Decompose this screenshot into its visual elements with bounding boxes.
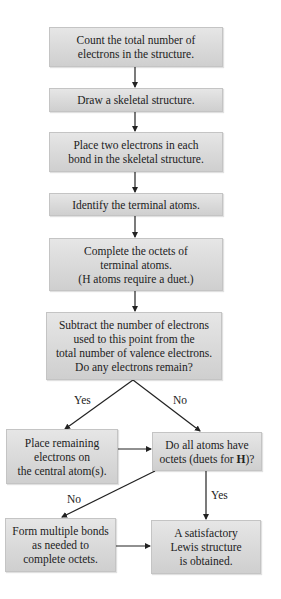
step-lewis-obtained: A satisfactory Lewis structure is obtain…	[151, 520, 261, 574]
step-form-multiple-bonds: Form multiple bonds as needed to complet…	[5, 518, 116, 572]
step-identify-terminal: Identify the terminal atoms.	[49, 193, 223, 216]
step-text: Do all atoms have octets (duets for H)?	[160, 438, 255, 466]
step-text: Count the total number of electrons in t…	[77, 33, 196, 61]
step-count-electrons: Count the total number of electrons in t…	[49, 27, 223, 67]
step-place-bond-electrons: Place two electrons in each bond in the …	[49, 132, 223, 172]
step-text: Complete the octets of terminal atoms. (…	[78, 244, 193, 286]
step-text: Form multiple bonds as needed to complet…	[12, 524, 108, 566]
step-place-remaining: Place remaining electrons on the central…	[6, 429, 118, 484]
label-yes-remain: Yes	[74, 394, 91, 407]
step-text: A satisfactory Lewis structure is obtain…	[170, 526, 241, 568]
step-text: Identify the terminal atoms.	[72, 198, 200, 212]
step-draw-skeleton: Draw a skeletal structure.	[49, 88, 223, 112]
label-no-remain: No	[173, 394, 187, 407]
step-text: Subtract the number of electrons used to…	[56, 318, 212, 374]
step-text: Draw a skeletal structure.	[77, 93, 195, 107]
step-subtract-electrons: Subtract the number of electrons used to…	[46, 312, 222, 380]
step-complete-octets: Complete the octets of terminal atoms. (…	[49, 238, 223, 291]
label-no-octets: No	[67, 493, 81, 506]
step-text: Place remaining electrons on the central…	[17, 436, 106, 478]
decision-all-octets: Do all atoms have octets (duets for H)?	[152, 432, 262, 471]
label-yes-octets: Yes	[211, 489, 228, 502]
step-text: Place two electrons in each bond in the …	[68, 138, 204, 166]
